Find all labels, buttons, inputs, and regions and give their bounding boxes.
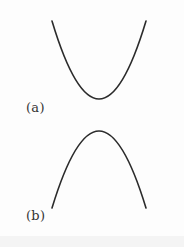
- panel-label-a: (a): [26, 101, 45, 115]
- parabola-figure: (a) (b): [0, 0, 184, 247]
- bottom-margin-band: [0, 236, 184, 247]
- panel-label-b: (b): [26, 209, 45, 223]
- curve-b-downward-parabola: [52, 131, 146, 208]
- curve-a-upward-parabola: [52, 21, 146, 99]
